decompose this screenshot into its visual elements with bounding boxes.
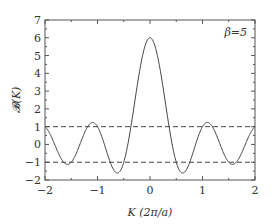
axes-frame xyxy=(45,20,255,180)
y-tick-label: −1 xyxy=(25,156,41,169)
x-tick-label: −1 xyxy=(89,184,105,197)
x-tick-label: 1 xyxy=(199,184,206,197)
y-tick-label: −2 xyxy=(25,174,41,187)
series-b-k- xyxy=(45,38,255,173)
y-tick-label: 1 xyxy=(34,121,41,134)
y-tick-label: 3 xyxy=(34,85,41,98)
y-tick-label: 7 xyxy=(34,14,41,27)
y-tick-label: 6 xyxy=(34,32,41,45)
y-tick-label: 5 xyxy=(34,50,41,63)
y-tick-label: 2 xyxy=(34,103,41,116)
chart: −2−1012−2−101234567 K (2π/a) 𝓑(K) β=5 xyxy=(0,0,272,224)
y-axis-label: 𝓑(K) xyxy=(10,87,23,114)
axis-ticks xyxy=(45,20,255,180)
x-tick-label: 0 xyxy=(147,184,154,197)
plot-area xyxy=(45,38,255,173)
x-tick-label: 2 xyxy=(252,184,259,197)
beta-annotation: β=5 xyxy=(223,26,247,39)
tick-labels: −2−1012−2−101234567 xyxy=(25,14,259,197)
y-tick-label: 4 xyxy=(34,67,41,80)
y-tick-label: 0 xyxy=(34,138,41,151)
x-axis-label: K (2π/a) xyxy=(127,206,173,219)
